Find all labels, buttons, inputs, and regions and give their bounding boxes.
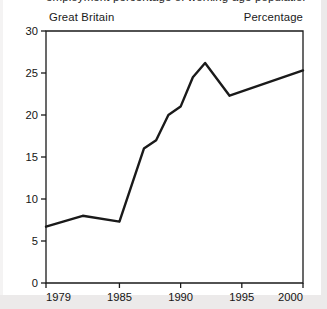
y-axis-tick-labels: 051015202530 [26,25,38,289]
x-axis-ticks [46,283,303,288]
x-axis-tick-label: 1990 [168,291,193,303]
y-axis-tick-label: 10 [26,193,38,205]
line-chart-plot: 051015202530 19791985199019952000 [0,0,327,309]
y-axis-tick-label: 0 [32,277,38,289]
y-axis-tick-label: 15 [26,151,38,163]
data-series-line [46,63,303,227]
y-axis-ticks [41,31,46,283]
x-axis-tick-labels: 19791985199019952000 [46,291,303,303]
y-axis-tick-label: 5 [32,235,38,247]
plot-frame [46,31,303,283]
x-axis-tick-label: 1985 [107,291,132,303]
figure-container: employment percentage of working-age pop… [0,0,327,309]
x-axis-tick-label: 1995 [229,291,254,303]
chart-svg: 051015202530 19791985199019952000 [0,0,327,309]
y-axis-tick-label: 30 [26,25,38,37]
y-axis-tick-label: 20 [26,109,38,121]
y-axis-tick-label: 25 [26,67,38,79]
x-axis-tick-label: 2000 [278,291,303,303]
x-axis-tick-label: 1979 [46,291,71,303]
